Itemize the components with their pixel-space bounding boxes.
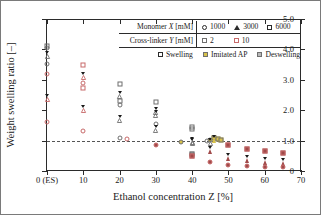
data-point-circle <box>81 128 86 133</box>
legend-header-monomer: Monomer X [mM] <box>119 21 197 33</box>
data-point-triangle <box>154 107 158 115</box>
data-point-square <box>190 125 195 130</box>
legend-item-deswelling: Deswelling <box>257 51 300 59</box>
data-point-square <box>45 44 50 49</box>
data-point-triangle <box>208 146 212 154</box>
plot-frame-top <box>46 19 300 20</box>
data-point-square <box>117 82 122 87</box>
data-point-triangle <box>208 138 212 146</box>
legend-items-monomer: 1000 3000 6000 <box>197 23 301 31</box>
data-point-triangle <box>263 157 267 165</box>
data-point-circle <box>45 71 50 76</box>
legend-header-crosslinker-suffix: [mM] <box>173 36 193 45</box>
data-point-square <box>81 86 86 91</box>
data-point-square <box>153 99 158 104</box>
x-axis-label: Ethanol concentration Z [%] <box>46 191 300 202</box>
y-tick-label: 0 <box>290 166 294 176</box>
square-gray-filled-marker-icon <box>257 52 262 57</box>
data-point-circle <box>262 164 267 169</box>
data-point-triangle <box>45 94 49 102</box>
x-tick-label: 50 <box>224 175 233 185</box>
legend-label-imitated-ap: Imitated AP <box>211 51 248 59</box>
x-tick-label: 40 <box>188 175 197 185</box>
data-point-circle <box>81 80 86 85</box>
y-tick <box>42 141 47 142</box>
legend-item-monomer-3000: 3000 <box>234 23 258 31</box>
x-tick-label: 70 <box>297 175 306 185</box>
data-point-triangle <box>118 115 122 123</box>
figure-panel: Weight swelling ratio [–] 01.02.03.04.05… <box>0 0 321 215</box>
legend-item-monomer-6000: 6000 <box>267 23 290 31</box>
legend-items-crosslinker: 2 10 <box>197 37 301 45</box>
square-open-marker-icon <box>158 52 163 57</box>
data-point-triangle <box>118 91 122 99</box>
data-point-circle <box>208 159 213 164</box>
y-tick <box>42 80 47 81</box>
data-point-triangle <box>154 110 158 118</box>
legend: Monomer X [mM] 1000 3000 6000 Cross-link… <box>119 21 301 59</box>
circle-marker-icon <box>202 25 207 30</box>
x-tick-label: 30 <box>152 175 161 185</box>
data-point-triangle <box>245 155 249 163</box>
data-point-circle <box>280 164 285 169</box>
y-tick-label: 3.0 <box>283 75 294 85</box>
legend-label-monomer-6000: 6000 <box>275 23 290 31</box>
data-point-square <box>190 127 195 132</box>
data-point-square <box>190 151 195 156</box>
square-marker-icon <box>267 25 272 30</box>
legend-item-swelling: Swelling <box>158 51 193 59</box>
legend-header-monomer-prefix: Monomer <box>137 22 169 31</box>
data-point-triangle <box>81 105 85 113</box>
data-point-square <box>244 146 249 151</box>
data-point-triangle <box>45 51 49 59</box>
legend-label-swelling: Swelling <box>166 51 193 59</box>
data-point-triangle <box>281 158 285 166</box>
square-marker-red-icon <box>234 38 239 43</box>
data-point-triangle <box>154 125 158 133</box>
x-tick-label: 10 <box>79 175 88 185</box>
legend-item-imitated-ap: Imitated AP <box>203 51 248 59</box>
data-point-square <box>262 148 267 153</box>
legend-row-state: Swelling Imitated AP Deswelling <box>119 48 301 59</box>
legend-header-crosslinker: Cross-linker Y [mM] <box>119 34 197 46</box>
data-point-circle <box>117 102 122 107</box>
data-point-square <box>226 142 231 147</box>
data-point-circle <box>244 163 249 168</box>
x-tick-label: 0 (ES) <box>36 175 58 185</box>
legend-label-monomer-3000: 3000 <box>243 23 258 31</box>
y-axis-label: Weight swelling ratio [–] <box>5 42 16 147</box>
legend-label-monomer-1000: 1000 <box>210 23 225 31</box>
legend-header-crosslinker-prefix: Cross-linker <box>130 36 169 45</box>
data-point-circle <box>45 61 50 66</box>
square-yellow-marker-icon <box>203 52 208 57</box>
data-point-square <box>190 153 195 158</box>
x-tick-label: 60 <box>260 175 269 185</box>
legend-label-crosslinker-2: 2 <box>210 37 214 45</box>
data-point-square <box>117 99 122 104</box>
legend-item-crosslinker-10: 10 <box>234 37 250 45</box>
y-tick <box>42 110 47 111</box>
reference-line-1.0 <box>47 141 300 142</box>
data-point-circle <box>153 143 158 148</box>
data-point-circle <box>45 120 50 125</box>
legend-row-monomer: Monomer X [mM] 1000 3000 6000 <box>119 21 301 34</box>
legend-label-crosslinker-10: 10 <box>242 37 250 45</box>
data-point-square <box>81 62 86 67</box>
legend-label-deswelling: Deswelling <box>265 51 300 59</box>
triangle-marker-icon <box>234 25 240 30</box>
data-point-square <box>280 150 285 155</box>
legend-item-crosslinker-2: 2 <box>202 37 214 45</box>
data-point-triangle <box>212 135 216 143</box>
x-tick-label: 20 <box>115 175 124 185</box>
data-point-triangle <box>190 138 194 146</box>
data-point-circle <box>226 162 231 167</box>
legend-item-monomer-1000: 1000 <box>202 23 225 31</box>
data-point-triangle <box>81 72 85 80</box>
y-tick-label: 1.0 <box>283 136 294 146</box>
x-tick-top <box>301 19 302 24</box>
legend-row-crosslinker: Cross-linker Y [mM] 2 10 <box>119 34 301 47</box>
y-tick <box>42 49 47 50</box>
square-marker-gray-icon <box>202 38 207 43</box>
data-point-triangle <box>226 153 230 161</box>
legend-header-monomer-suffix: [mM] <box>173 22 193 31</box>
